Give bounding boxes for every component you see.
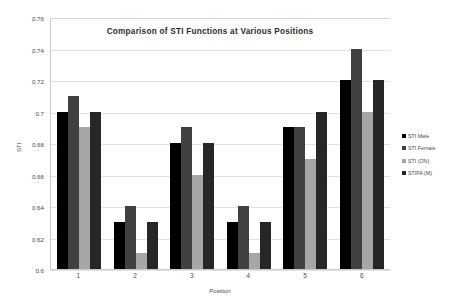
bar: [340, 80, 351, 269]
bar: [90, 112, 101, 270]
legend-swatch-icon: [402, 171, 406, 175]
legend-label: STI Female: [408, 145, 435, 151]
legend-label: STI Male: [408, 133, 429, 139]
bar: [294, 127, 305, 269]
legend-swatch-icon: [402, 146, 406, 150]
bar: [373, 80, 384, 269]
bar: [170, 143, 181, 269]
x-axis-tick-label: 3: [163, 272, 220, 279]
bar: [203, 143, 214, 269]
y-axis-tick-label: 0.7: [0, 110, 44, 117]
bar: [305, 159, 316, 269]
bar-group: [51, 18, 108, 269]
y-axis-tick-label: 0.64: [0, 204, 44, 211]
bar: [362, 112, 373, 270]
legend-swatch-icon: [402, 159, 406, 163]
x-axis-tick-label: 4: [220, 272, 277, 279]
legend-item: STI Female: [402, 145, 460, 152]
legend-label: STIPA (M): [408, 170, 432, 176]
bar: [79, 127, 90, 269]
bar: [125, 206, 136, 269]
bar: [114, 222, 125, 269]
bar-group: [277, 18, 334, 269]
x-axis-tick-label: 1: [50, 272, 107, 279]
bar-group: [108, 18, 165, 269]
legend-swatch-icon: [402, 134, 406, 138]
bar: [57, 112, 68, 270]
bar: [147, 222, 158, 269]
bar: [68, 96, 79, 269]
bar: [351, 49, 362, 270]
legend-item: STI Male: [402, 132, 460, 139]
y-axis-tick-label: 0.62: [0, 236, 44, 243]
y-axis-tick-label: 0.72: [0, 78, 44, 85]
y-axis-tick-label: 0.74: [0, 47, 44, 54]
x-axis-tick-label: 5: [277, 272, 334, 279]
legend-item: STI (ON): [402, 157, 460, 164]
chart-container: Comparison of STI Functions at Various P…: [0, 0, 460, 304]
x-axis-tick-label: 6: [333, 272, 390, 279]
legend-item: STIPA (M): [402, 170, 460, 177]
y-axis-tick-label: 0.76: [0, 15, 44, 22]
bar-group: [164, 18, 221, 269]
y-axis-tick-label: 0.68: [0, 141, 44, 148]
bar: [227, 222, 238, 269]
bar: [238, 206, 249, 269]
chart-legend: STI MaleSTI FemaleSTI (ON)STIPA (M): [402, 132, 460, 182]
x-axis-tick-label: 2: [107, 272, 164, 279]
bar-groups: [51, 18, 390, 269]
bar-group: [221, 18, 278, 269]
bar: [249, 253, 260, 269]
bar: [260, 222, 271, 269]
bar: [316, 112, 327, 270]
bar: [192, 175, 203, 270]
bar: [181, 127, 192, 269]
gridline: [51, 270, 390, 271]
y-axis-tick-label: 0.66: [0, 173, 44, 180]
x-axis-ticks: 123456: [50, 272, 390, 279]
x-axis-label: Position: [50, 288, 390, 294]
plot-area: [50, 18, 390, 270]
y-axis-tick-label: 0.6: [0, 267, 44, 274]
bar: [283, 127, 294, 269]
legend-label: STI (ON): [408, 158, 429, 164]
bar: [136, 253, 147, 269]
bar-group: [334, 18, 391, 269]
